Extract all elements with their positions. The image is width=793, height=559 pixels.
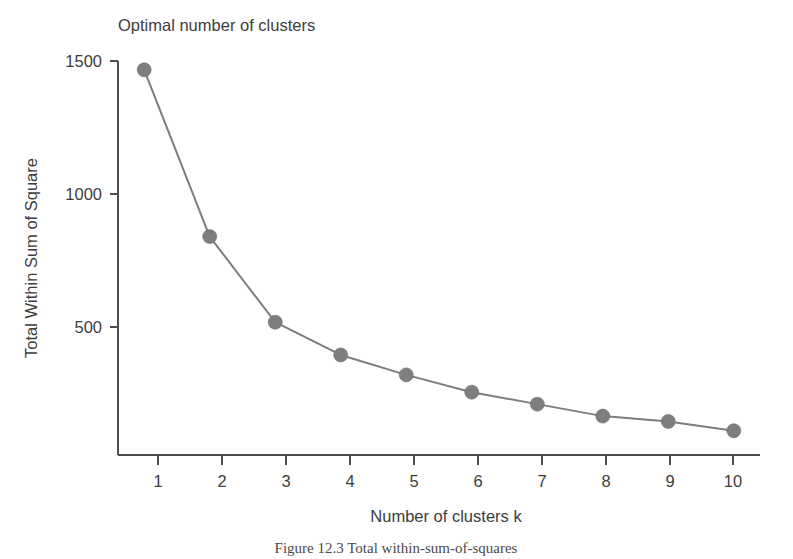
x-tick-label-5: 5	[409, 472, 418, 490]
x-axis-ticks	[158, 455, 733, 465]
data-point	[203, 230, 217, 244]
y-tick-label-1500: 1500	[65, 52, 102, 70]
x-tick-label-9: 9	[665, 472, 674, 490]
elbow-plot-chart: Optimal number of clusters Total Within …	[0, 0, 793, 559]
data-point	[399, 368, 413, 382]
x-tick-label-1: 1	[153, 472, 162, 490]
figure-container: Optimal number of clusters Total Within …	[0, 0, 793, 559]
data-point	[530, 397, 544, 411]
data-point	[334, 348, 348, 362]
x-tick-label-10: 10	[724, 472, 742, 490]
y-tick-label-1000: 1000	[65, 185, 102, 203]
series-line-wss	[144, 70, 734, 431]
data-point	[465, 385, 479, 399]
x-axis-label: Number of clusters k	[370, 507, 522, 525]
x-tick-label-2: 2	[217, 472, 226, 490]
data-point	[661, 414, 675, 428]
y-axis-label: Total Within Sum of Square	[22, 158, 40, 358]
x-tick-label-6: 6	[473, 472, 482, 490]
y-axis-ticks	[110, 61, 118, 327]
x-tick-label-3: 3	[281, 472, 290, 490]
chart-title: Optimal number of clusters	[118, 16, 315, 34]
data-point	[268, 315, 282, 329]
series-markers-group	[137, 63, 741, 438]
x-tick-label-7: 7	[537, 472, 546, 490]
x-tick-label-8: 8	[601, 472, 610, 490]
data-point	[137, 63, 151, 77]
figure-caption: Figure 12.3 Total within-sum-of-squares	[275, 540, 518, 556]
y-axis-tick-labels: 1500 1000 500	[65, 52, 102, 336]
x-tick-label-4: 4	[345, 472, 354, 490]
data-point	[727, 424, 741, 438]
data-point	[596, 409, 610, 423]
y-tick-label-500: 500	[74, 318, 102, 336]
x-axis-tick-labels: 1 2 3 4 5 6 7 8 9 10	[153, 472, 742, 490]
